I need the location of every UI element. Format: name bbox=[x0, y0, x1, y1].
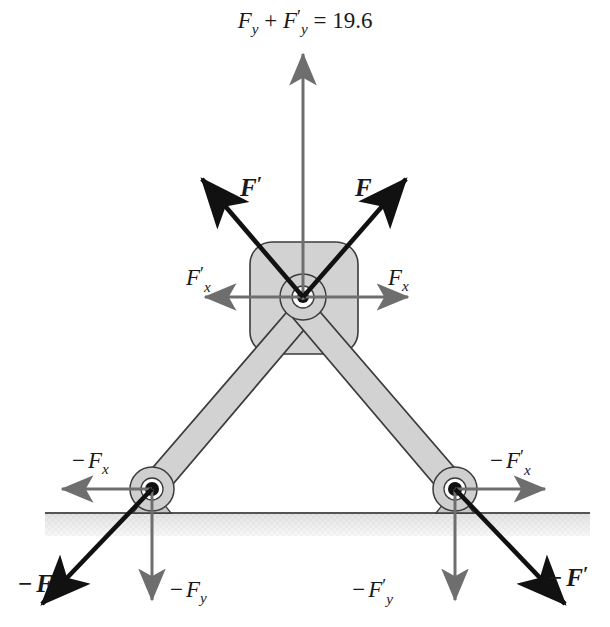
eq-F1-sub: y bbox=[250, 20, 259, 37]
reaction-left-horizontal-label: −Fx bbox=[72, 448, 109, 477]
rld-F: F bbox=[35, 570, 53, 597]
eq-F2: F bbox=[282, 8, 298, 33]
comp-left-sub: x bbox=[203, 278, 211, 295]
component-right-label: Fx bbox=[387, 265, 409, 294]
rrv-F: F bbox=[367, 577, 383, 602]
rrh-F: F bbox=[505, 448, 521, 473]
eq-value: 19.6 bbox=[332, 8, 372, 33]
right-leg bbox=[293, 306, 465, 497]
rrd-prime: ′ bbox=[583, 563, 589, 585]
svg-text:Fx: Fx bbox=[387, 265, 409, 294]
diagram-canvas: Fy + F′y = 19.6 F′ F F′x Fx bbox=[0, 0, 610, 627]
comp-right-F: F bbox=[387, 265, 403, 290]
rlh-minus: − bbox=[72, 448, 85, 473]
comp-right-sub: x bbox=[401, 277, 409, 294]
svg-text:−F: −F bbox=[18, 570, 53, 597]
rrh-sub: x bbox=[523, 461, 531, 478]
rrv-sub: y bbox=[384, 590, 393, 607]
force-left-prime: ′ bbox=[257, 173, 263, 195]
svg-text:Fy + F′y = 19.6: Fy + F′y = 19.6 bbox=[237, 7, 373, 37]
rrv-minus: − bbox=[352, 577, 365, 602]
svg-text:−Fy: −Fy bbox=[170, 577, 207, 606]
force-left-label: F′ bbox=[239, 173, 262, 201]
eq-F1: F bbox=[237, 8, 253, 33]
rlh-F: F bbox=[87, 448, 103, 473]
rlh-sub: x bbox=[101, 460, 109, 477]
comp-left-F: F bbox=[185, 265, 201, 290]
rrd-minus: − bbox=[548, 564, 562, 591]
reaction-left-diagonal-arrow bbox=[42, 489, 152, 604]
rrd-F: F bbox=[565, 564, 583, 591]
rlv-F: F bbox=[185, 577, 201, 602]
reaction-left-diagonal-label: −F bbox=[18, 570, 53, 597]
resultant-equation-label: Fy + F′y = 19.6 bbox=[237, 7, 373, 37]
force-right-F: F bbox=[354, 174, 372, 201]
rld-minus: − bbox=[18, 570, 32, 597]
svg-text:−F′x: −F′x bbox=[490, 447, 531, 478]
eq-plus: + bbox=[258, 8, 282, 33]
svg-text:−F′: −F′ bbox=[548, 563, 589, 591]
left-reactions bbox=[42, 489, 152, 604]
rlv-minus: − bbox=[170, 577, 183, 602]
reaction-right-horizontal-label: −F′x bbox=[490, 447, 531, 478]
svg-text:F′x: F′x bbox=[185, 264, 211, 295]
rrh-minus: − bbox=[490, 448, 503, 473]
reaction-right-diagonal-label: −F′ bbox=[548, 563, 589, 591]
component-left-label: F′x bbox=[185, 264, 211, 295]
svg-text:−F′y: −F′y bbox=[352, 576, 393, 607]
svg-text:F′: F′ bbox=[239, 173, 262, 201]
reaction-left-vertical-label: −Fy bbox=[170, 577, 207, 606]
eq-F2-sub: y bbox=[299, 20, 308, 37]
eq-equals: = bbox=[308, 8, 332, 33]
reaction-right-vertical-label: −F′y bbox=[352, 576, 393, 607]
force-right-label: F bbox=[354, 174, 372, 201]
rlv-sub: y bbox=[198, 589, 207, 606]
left-leg bbox=[142, 306, 314, 497]
svg-text:−Fx: −Fx bbox=[72, 448, 109, 477]
force-diagram: Fy + F′y = 19.6 F′ F F′x Fx bbox=[0, 0, 610, 627]
force-left-F: F bbox=[239, 174, 257, 201]
